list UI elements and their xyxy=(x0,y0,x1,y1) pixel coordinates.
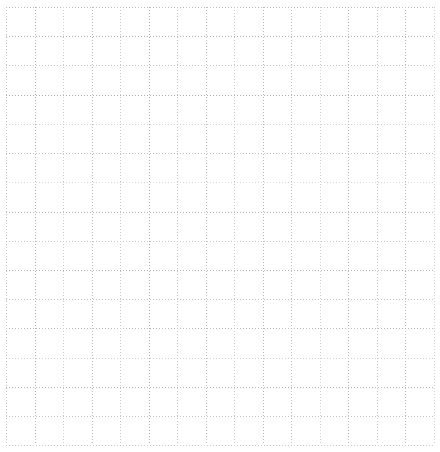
canvas-background xyxy=(0,0,440,452)
grid-canvas xyxy=(0,0,440,452)
grid-graphic xyxy=(0,0,440,452)
grid-surface xyxy=(0,0,440,452)
